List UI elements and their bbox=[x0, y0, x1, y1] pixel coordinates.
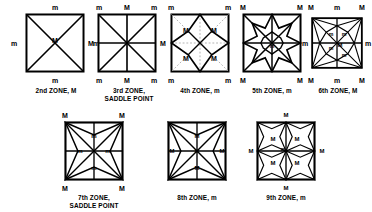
zone-2-label-top: m bbox=[52, 4, 58, 11]
zone-8-caption: 8th ZONE, m bbox=[155, 194, 239, 202]
zone-7-caption-line1: 7th ZONE, bbox=[78, 194, 110, 201]
zone-6-caption: 6th ZONE, M bbox=[296, 87, 372, 95]
zone-4-drawing bbox=[169, 12, 231, 74]
zone-9-label-quadrant-bl: M bbox=[271, 160, 276, 167]
zone-7-label-left-inner: m bbox=[77, 148, 82, 155]
zone-9-caption: 9th ZONE, m bbox=[244, 194, 328, 202]
zone-5-label-corner-tl: M bbox=[240, 4, 246, 11]
zone-4-label-quadrant-bl: M bbox=[183, 55, 189, 62]
zone-4-label-corner-tr: m bbox=[225, 4, 231, 11]
zone-7-label-corner-br: M bbox=[119, 185, 125, 192]
zone-3-label-top: M bbox=[124, 4, 130, 11]
zone-4-label-corner-tl: m bbox=[168, 4, 174, 11]
zone-3-label-bottom: M bbox=[124, 77, 130, 84]
diagram-sheet: m m m m M 2nd ZONE, M m M m M M m M m 3r… bbox=[0, 0, 372, 212]
zone-5-label-center: m bbox=[270, 43, 275, 50]
zone-3-label-left: M bbox=[88, 40, 94, 47]
zone-9-label-quadrant-br: M bbox=[295, 160, 300, 167]
zone-6-label-inner-bl: m bbox=[329, 45, 334, 52]
panel-zone-7 bbox=[63, 120, 125, 182]
zone-2-label-center: M bbox=[52, 37, 58, 44]
zone-9-label-quadrant-tr: M bbox=[295, 136, 300, 143]
zone-7-label-right-inner: m bbox=[105, 148, 110, 155]
zone-7-drawing bbox=[63, 120, 125, 182]
zone-7-label-corner-tl: M bbox=[62, 112, 68, 119]
zone-3-drawing bbox=[96, 12, 158, 74]
zone-9-label-quadrant-tl: M bbox=[271, 136, 276, 143]
zone-9-label-center: m bbox=[281, 146, 286, 153]
zone-6-label-inner-br: m bbox=[342, 52, 347, 59]
zone-5-label-corner-bl: M bbox=[240, 77, 246, 84]
zone-3-label-corner-br: m bbox=[151, 77, 157, 84]
zone-8-label-top: M bbox=[195, 133, 200, 140]
zone-7-caption-line2: SADDLE POINT bbox=[70, 202, 119, 209]
zone-3-caption-line2: SADDLE POINT bbox=[105, 95, 154, 102]
zone-4-label-quadrant-br: M bbox=[211, 55, 217, 62]
zone-6-label-corner-tl: M bbox=[308, 4, 314, 11]
zone-7-label-bottom-inner: m bbox=[91, 165, 96, 172]
zone-5-label-corner-br: M bbox=[297, 77, 303, 84]
panel-zone-3 bbox=[96, 12, 158, 74]
zone-7-caption: 7th ZONE,SADDLE POINT bbox=[50, 194, 138, 210]
zone-9-label-bottom: M bbox=[284, 185, 289, 192]
zone-3-caption-line1: 3rd ZONE, bbox=[113, 87, 145, 94]
zone-3-label-corner-tr: m bbox=[151, 4, 157, 11]
zone-6-label-center: M bbox=[338, 42, 343, 49]
zone-7-label-corner-bl: M bbox=[62, 185, 68, 192]
zone-3-label-corner-bl: m bbox=[96, 77, 102, 84]
zone-6-label-right: m bbox=[365, 40, 371, 47]
zone-9-label-top: M bbox=[284, 112, 289, 119]
panel-zone-4 bbox=[169, 12, 231, 74]
zone-6-label-top: m bbox=[334, 4, 340, 11]
zone-9-label-left: M bbox=[249, 148, 254, 155]
zone-2-label-left: m bbox=[11, 40, 17, 47]
zone-4-label-quadrant-tl: M bbox=[183, 27, 189, 34]
zone-8-label-center: M bbox=[195, 148, 199, 155]
zone-6-label-inner-tl: m bbox=[329, 31, 334, 38]
panel-zone-9 bbox=[255, 120, 317, 182]
zone-6-label-inner-tr: m bbox=[342, 31, 347, 38]
zone-6-label-corner-br: M bbox=[359, 77, 365, 84]
zone-8-label-bottom: M bbox=[195, 165, 200, 172]
zone-3-label-right: M bbox=[160, 40, 166, 47]
zone-5-label-corner-tr: M bbox=[297, 4, 303, 11]
zone-6-label-bottom: m bbox=[334, 77, 340, 84]
zone-8-label-right: M bbox=[220, 148, 225, 155]
zone-6-label-left: m bbox=[302, 40, 308, 47]
zone-6-label-corner-tr: M bbox=[359, 4, 365, 11]
zone-3-label-corner-tl: m bbox=[96, 4, 102, 11]
zone-2-label-bottom: m bbox=[52, 77, 58, 84]
zone-4-label-quadrant-tr: M bbox=[211, 27, 217, 34]
zone-4-label-corner-bl: m bbox=[168, 77, 174, 84]
zone-4-label-corner-br: m bbox=[225, 77, 231, 84]
zone-8-label-left: M bbox=[170, 148, 175, 155]
zone-6-label-corner-bl: M bbox=[308, 77, 314, 84]
zone-9-label-right: M bbox=[320, 148, 325, 155]
zone-9-drawing bbox=[255, 120, 317, 182]
zone-7-label-top-inner: m bbox=[91, 133, 96, 140]
zone-7-label-corner-tr: M bbox=[119, 112, 125, 119]
